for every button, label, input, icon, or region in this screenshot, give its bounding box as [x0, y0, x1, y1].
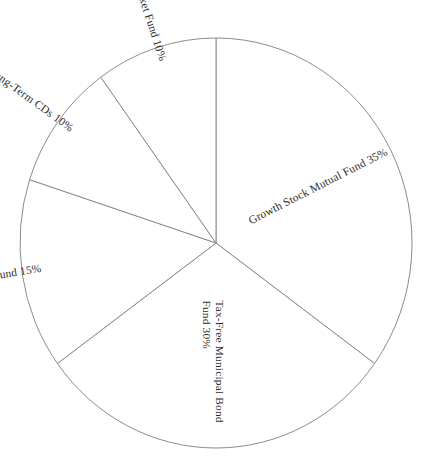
pie-chart-figure: Growth Stock Mutual Fund 35%Tax-Free Mun…: [0, 0, 426, 474]
pie-slice-label-line: Long-Term CDs 10%: [0, 64, 76, 134]
pie-slice-label-long-term-cds: Long-Term CDs 10%: [0, 64, 76, 134]
pie-slice-label-line: Fund 30%: [201, 300, 213, 349]
pie-slice-label-line: Tax-Free Municipal Bond: [214, 300, 226, 422]
pie-chart-svg: Growth Stock Mutual Fund 35%Tax-Free Mun…: [0, 0, 426, 474]
